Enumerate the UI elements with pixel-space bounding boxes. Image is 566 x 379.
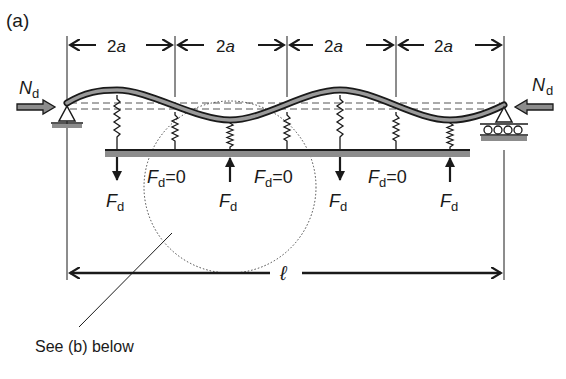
callout-leader bbox=[79, 233, 172, 327]
spring-6 bbox=[393, 112, 399, 150]
length-label: ℓ bbox=[279, 262, 288, 284]
span-labels: 2a 2a 2a 2a bbox=[107, 37, 453, 56]
spring-7 bbox=[447, 121, 453, 150]
axial-force-right: N d bbox=[515, 75, 553, 114]
svg-text:d: d bbox=[32, 86, 39, 101]
callout-text: See (b) below bbox=[35, 338, 134, 355]
span-label-4: 2a bbox=[434, 37, 453, 56]
panel-label: (a) bbox=[6, 10, 29, 31]
force-label-7: Fd bbox=[440, 191, 458, 214]
arrow-right-icon bbox=[17, 100, 55, 114]
span-label-1: 2a bbox=[107, 37, 126, 56]
extension-lines bbox=[67, 36, 504, 280]
pin-support-left bbox=[51, 106, 83, 128]
force-label-4: Fd=0 bbox=[254, 167, 293, 190]
force-label-3: Fd bbox=[219, 191, 237, 214]
force-label-6: Fd=0 bbox=[368, 167, 407, 190]
spring-4 bbox=[284, 112, 290, 150]
buckled-beam bbox=[67, 90, 504, 120]
force-labels: Fd Fd=0 Fd Fd=0 Fd Fd=0 Fd bbox=[106, 167, 458, 214]
span-label-2: 2a bbox=[216, 37, 235, 56]
force-label-2: Fd=0 bbox=[147, 167, 186, 190]
axial-force-left: N d bbox=[17, 78, 55, 114]
arrow-left-icon bbox=[515, 100, 553, 114]
span-label-3: 2a bbox=[324, 37, 343, 56]
spring-3 bbox=[227, 121, 233, 150]
svg-text:N: N bbox=[19, 78, 33, 98]
spring-2 bbox=[172, 112, 178, 150]
svg-text:d: d bbox=[546, 83, 553, 98]
force-label-5: Fd bbox=[329, 191, 347, 214]
force-label-1: Fd bbox=[106, 191, 124, 214]
ground-plate bbox=[105, 150, 470, 157]
svg-text:N: N bbox=[532, 75, 546, 95]
beam-on-springs-diagram: (a) 2a 2a 2a 2a bbox=[0, 0, 566, 379]
